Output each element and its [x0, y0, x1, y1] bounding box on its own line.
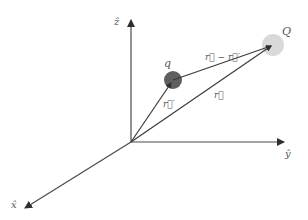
vector-r-minus-r-prime-label: r⃗ − r⃗′: [205, 52, 240, 62]
vector-r-prime-label: r⃗′: [163, 99, 175, 109]
vector-r-label: r⃗: [214, 90, 224, 100]
z-axis-label: ẑ: [113, 16, 120, 27]
charge-Q-label: Q: [282, 25, 291, 38]
charge-Q: [262, 34, 284, 56]
y-axis-label: ŷ: [284, 148, 291, 159]
x-axis-label: x̂: [11, 199, 17, 210]
x-axis: [25, 142, 131, 208]
charge-q-label: q: [164, 57, 171, 70]
vector-r-prime: [131, 83, 171, 142]
vector-r: [131, 46, 271, 142]
